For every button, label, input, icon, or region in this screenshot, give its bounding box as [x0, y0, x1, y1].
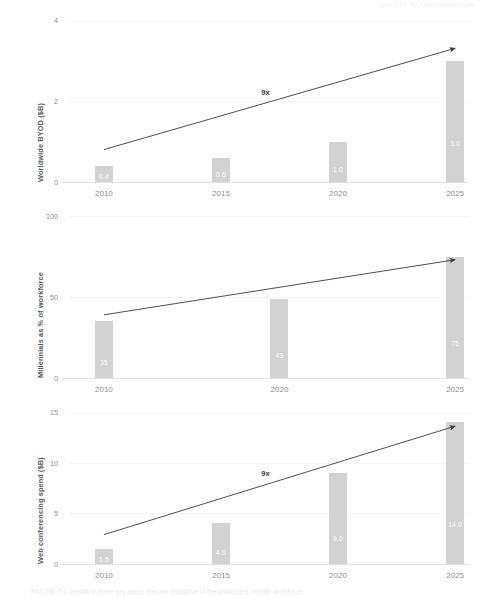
plot-area-3: 0510151.520104.020159.0202014.020259x — [70, 412, 469, 564]
y-axis-tick-label: 10 — [50, 458, 58, 467]
bar-value-label: 49 — [276, 352, 284, 359]
bar: 1.0 — [329, 142, 347, 183]
bar: 3.0 — [446, 61, 464, 183]
x-axis-tick-label: 2025 — [446, 385, 464, 394]
bar-value-label: 3.0 — [450, 140, 460, 147]
bar: 9.0 — [329, 473, 347, 564]
y-axis-tick-label: 50 — [50, 293, 58, 302]
gridline — [70, 412, 469, 413]
gridline — [70, 20, 469, 21]
bar-value-label: 1.5 — [99, 556, 109, 563]
chart-web-conferencing-spend: Web conferencing spend ($B) 0510151.5201… — [0, 402, 483, 588]
figure-caption: FIGURE 7.1 Growth in three key areas tha… — [31, 587, 471, 596]
bar: 1.5 — [95, 549, 113, 564]
bar-value-label: 14.0 — [448, 521, 462, 528]
bar: 0.4 — [95, 166, 113, 182]
x-axis-tick-label: 2010 — [95, 385, 113, 394]
y-axis-tick-label: 2 — [54, 97, 58, 106]
y-axis-tick-label: 0 — [54, 560, 58, 569]
gridline — [70, 101, 469, 102]
y-axis-tick-label: 15 — [50, 408, 58, 417]
y-axis-tick-label: 4 — [54, 16, 58, 25]
x-axis-tick-label: 2015 — [212, 189, 230, 198]
bar: 0.6 — [212, 158, 230, 182]
x-axis-tick-label: 2025 — [446, 571, 464, 580]
bar-value-label: 0.6 — [216, 171, 226, 178]
trend-multiplier-label: 9x — [261, 87, 269, 96]
y-axis-title: Web conferencing spend ($B) — [36, 404, 45, 564]
bar: 49 — [270, 299, 288, 378]
page-header: DIGITAL TRANSFORMATION — [380, 2, 475, 8]
bar-value-label: 9.0 — [333, 535, 343, 542]
trend-arrow — [70, 412, 469, 564]
gridline — [70, 463, 469, 464]
x-axis-line — [62, 182, 469, 183]
chart-worldwide-byod: Worldwide BYOD ($B) 0240.420100.620151.0… — [0, 10, 483, 206]
gridline — [70, 216, 469, 217]
y-axis-tick-label: 0 — [54, 178, 58, 187]
chart-millennials-workforce: Millennials as % of workforce 0501003520… — [0, 206, 483, 402]
bar: 35 — [95, 321, 113, 378]
bar: 14.0 — [446, 422, 464, 564]
x-axis-tick-label: 2025 — [446, 189, 464, 198]
gridline — [70, 513, 469, 514]
x-axis-tick-label: 2020 — [329, 571, 347, 580]
x-axis-line — [62, 378, 469, 379]
trend-multiplier-label: 9x — [261, 469, 269, 478]
y-axis-title: Millennials as % of workforce — [36, 218, 45, 378]
y-axis-tick-label: 100 — [46, 212, 58, 221]
x-axis-tick-label: 2020 — [271, 385, 289, 394]
bar-value-label: 4.0 — [216, 549, 226, 556]
y-axis-title: Worldwide BYOD ($B) — [36, 22, 45, 182]
bar-value-label: 0.4 — [99, 173, 109, 180]
bar: 4.0 — [212, 523, 230, 564]
x-axis-tick-label: 2015 — [212, 571, 230, 580]
bar-value-label: 75 — [451, 340, 459, 347]
x-axis-tick-label: 2010 — [95, 571, 113, 580]
x-axis-tick-label: 2010 — [95, 189, 113, 198]
y-axis-tick-label: 5 — [54, 509, 58, 518]
plot-area-2: 050100352010492020752025 — [70, 216, 469, 378]
x-axis-line — [62, 564, 469, 565]
plot-area-1: 0240.420100.620151.020203.020259x — [70, 20, 469, 182]
bar-value-label: 35 — [100, 359, 108, 366]
x-axis-tick-label: 2020 — [329, 189, 347, 198]
bar-value-label: 1.0 — [333, 166, 343, 173]
bar: 75 — [446, 257, 464, 379]
y-axis-tick-label: 0 — [54, 374, 58, 383]
